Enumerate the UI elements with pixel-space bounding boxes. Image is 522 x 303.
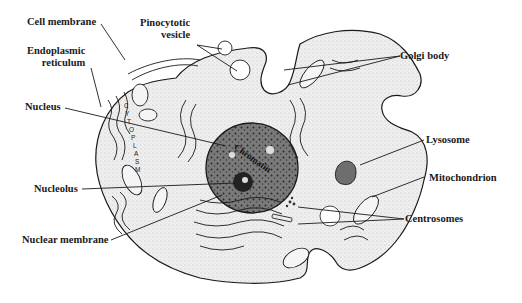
svg-text:Y: Y (125, 110, 130, 117)
label-lysosome: Lysosome (426, 134, 470, 146)
label-nuclear-membrane: Nuclear membrane (22, 234, 108, 246)
pinocytotic-vesicle-1 (218, 41, 232, 55)
label-nucleolus: Nucleolus (34, 183, 78, 195)
svg-text:L: L (133, 142, 137, 149)
svg-text:A: A (134, 150, 139, 157)
label-er-line2: reticulum (27, 57, 85, 69)
label-er-line1: Endoplasmic (27, 45, 85, 57)
svg-text:O: O (129, 126, 134, 133)
nucleus (206, 123, 298, 213)
label-mitochondrion: Mitochondrion (429, 172, 497, 184)
label-pinocytotic-vesicle: Pinocytotic vesicle (140, 17, 190, 40)
svg-text:S: S (135, 158, 140, 165)
pinocytotic-vesicle-2 (230, 60, 250, 80)
label-pinocytotic-line1: Pinocytotic (140, 17, 190, 29)
label-centrosomes: Centrosomes (405, 213, 463, 225)
svg-text:C: C (124, 102, 129, 109)
label-pinocytotic-line2: vesicle (140, 29, 190, 41)
label-cell-membrane: Cell membrane (27, 16, 96, 28)
label-endoplasmic-reticulum: Endoplasmic reticulum (27, 45, 85, 68)
label-nucleus: Nucleus (25, 101, 61, 113)
svg-text:P: P (131, 134, 135, 141)
mitochondrion-1 (132, 84, 148, 106)
svg-text:M: M (135, 166, 140, 173)
label-golgi-body: Golgi body (400, 50, 449, 62)
svg-text:T: T (127, 118, 131, 125)
mitochondrion-2 (139, 109, 157, 121)
